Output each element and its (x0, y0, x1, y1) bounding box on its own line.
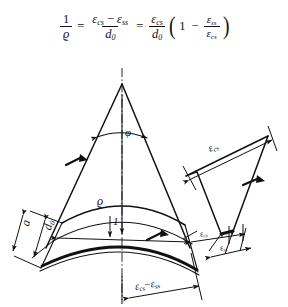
label-bottom-eps-ss-sub: ss (154, 282, 160, 290)
wedge-left-edge (197, 172, 222, 236)
arc-span-dimension (57, 238, 190, 242)
rhs-d-subscript: 0 (158, 33, 162, 42)
label-phi: φ (125, 126, 131, 138)
inner-eps-cs-subscript: cs (211, 32, 217, 40)
sector-right-radius (122, 84, 190, 248)
eps-ss-small-dimension-line (211, 248, 251, 257)
lhs-fraction: 1 ϱ (60, 12, 72, 41)
eps-cs-small-dimension-line (191, 234, 245, 242)
inner-numerator: εss (204, 13, 220, 25)
rhs-fraction: εcs d0 (148, 12, 166, 41)
bottom-ext-line-right (191, 253, 202, 300)
ext-line-bottom-a (14, 256, 41, 268)
wedge-tip-base (221, 231, 233, 234)
label-eps-cs-small: εcs (199, 228, 208, 238)
lhs-denominator: ϱ (60, 26, 72, 41)
diagram-band: φ ϱ 1 a d0 εcs εcs εss εcs−εss (0, 48, 288, 307)
sector-arc-bottom-thick (42, 247, 197, 270)
wedge-edge-tick (243, 175, 265, 185)
inner-denominator: εcs (204, 26, 220, 39)
eps-cs-ext-right (268, 126, 277, 151)
rhs-denominator: d0 (149, 26, 165, 41)
label-eps-cs-small-sub: cs (203, 232, 208, 239)
inner-minus-sign: − (191, 19, 198, 34)
figure-root: 1 ϱ = εcs−εss d0 = εcs (0, 0, 288, 307)
one-term: 1 (179, 19, 185, 34)
inner-fraction: εss εcs (204, 13, 220, 39)
lhs-numerator: 1 (60, 12, 72, 26)
paren-open: ( (169, 18, 175, 34)
rhs-numerator: εcs (148, 12, 166, 26)
eps-ss-subscript: ss (122, 18, 128, 27)
label-eps-ss-small: εss (219, 243, 228, 253)
middle-denominator: d0 (102, 26, 118, 41)
middle-fraction: εcs−εss d0 (89, 12, 131, 41)
equation: 1 ϱ = εcs−εss d0 = εcs (58, 12, 230, 41)
formula-band: 1 ϱ = εcs−εss d0 = εcs (0, 0, 288, 52)
equals-sign-1: = (77, 19, 84, 34)
sector-left-radius (46, 84, 122, 248)
label-rho: ϱ (97, 194, 103, 209)
equals-sign-2: = (136, 19, 143, 34)
paren-close: ) (223, 18, 229, 34)
d-subscript: 0 (111, 33, 115, 42)
geometry-drawing (0, 48, 288, 307)
minus-sign: − (107, 12, 114, 26)
label-unit-one: 1 (113, 215, 119, 227)
curvature-formula: 1 ϱ = εcs−εss d0 = εcs (0, 0, 288, 52)
middle-numerator: εcs−εss (89, 12, 131, 26)
